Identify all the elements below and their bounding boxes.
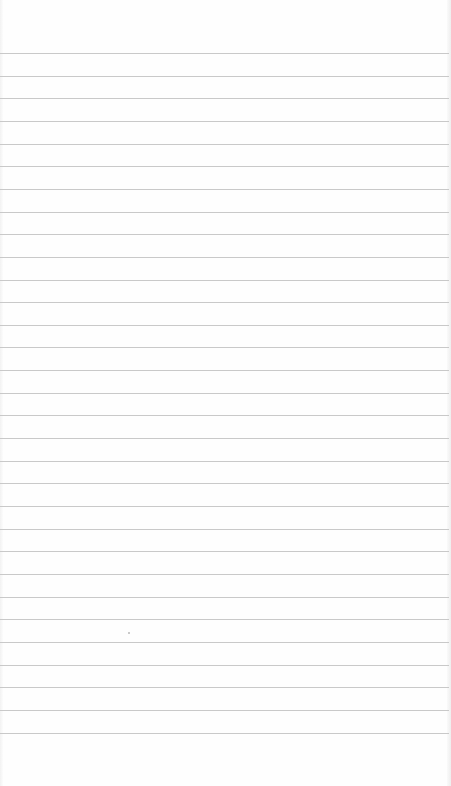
ruled-line	[0, 461, 449, 462]
ruled-line	[0, 619, 449, 620]
ruled-line	[0, 733, 449, 734]
ruled-line	[0, 483, 449, 484]
ruled-line	[0, 325, 449, 326]
ruled-line	[0, 302, 449, 303]
ruled-line	[0, 665, 449, 666]
ruled-line	[0, 687, 449, 688]
ruled-line	[0, 506, 449, 507]
ruled-line	[0, 529, 449, 530]
ruled-line	[0, 144, 449, 145]
ruled-line	[0, 438, 449, 439]
ruled-line	[0, 370, 449, 371]
ruled-line	[0, 166, 449, 167]
stray-mark	[128, 632, 130, 634]
ruled-line	[0, 597, 449, 598]
ruled-line	[0, 234, 449, 235]
ruled-line	[0, 347, 449, 348]
ruled-line	[0, 280, 449, 281]
ruled-line	[0, 121, 449, 122]
ruled-line	[0, 710, 449, 711]
lined-paper	[0, 0, 451, 786]
ruled-line	[0, 53, 449, 54]
ruled-line	[0, 642, 449, 643]
ruled-line	[0, 212, 449, 213]
ruled-line	[0, 574, 449, 575]
ruled-line	[0, 98, 449, 99]
ruled-line	[0, 76, 449, 77]
ruled-line	[0, 189, 449, 190]
ruled-line	[0, 393, 449, 394]
ruled-line	[0, 551, 449, 552]
ruled-line	[0, 415, 449, 416]
ruled-line	[0, 257, 449, 258]
